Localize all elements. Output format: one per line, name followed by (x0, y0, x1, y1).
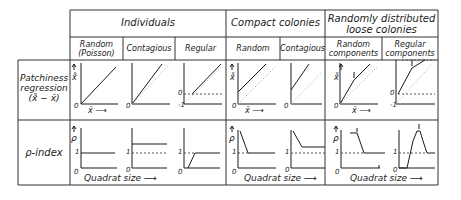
zero-label: 0 (178, 89, 182, 97)
plot-rho-random (81, 128, 117, 168)
one-label: 1 (393, 148, 397, 156)
plot-rho-regular-components (399, 124, 435, 168)
zero-label: 0 (178, 168, 182, 176)
zero-label: 0 (74, 168, 78, 176)
plot-rho-regular (184, 128, 220, 168)
one-label: 1 (126, 148, 130, 156)
x-axis-label: x̄ ⟶ (245, 106, 264, 115)
quadrat-size-label: Quadrat size ⟶ (350, 173, 423, 183)
zero-label: 0 (74, 102, 78, 110)
quadrat-size-label: Quadrat size ⟶ (84, 173, 157, 183)
zero-label: 0 (126, 102, 130, 110)
plot-patchiness-random (81, 63, 118, 104)
one-label: 1 (285, 148, 289, 156)
x-axis-label: x̄ ⟶ (88, 106, 107, 115)
plot-patchiness-compact-random (238, 63, 276, 104)
plot-patchiness-regular (184, 63, 222, 104)
plot-rho-contagious (132, 128, 167, 168)
plot-rho-random-components (341, 128, 385, 168)
minus-one-label: -1 (178, 101, 185, 109)
plot-patchiness-compact-contagious (291, 63, 322, 104)
y-label-rho: ρ (333, 133, 339, 143)
plot-patchiness-regular-components (396, 60, 435, 104)
minus-one-label: -1 (390, 101, 397, 109)
mini-plots (0, 0, 461, 200)
quadrat-size-label: Quadrat size ⟶ (244, 173, 317, 183)
y-label-rho: ρ (229, 133, 235, 143)
zero-label: 0 (334, 102, 338, 110)
one-label: 1 (335, 148, 339, 156)
plot-rho-compact-contagious (291, 130, 325, 168)
zero-label: 0 (232, 102, 236, 110)
one-label: 1 (75, 148, 79, 156)
zero-label: 0 (232, 168, 236, 176)
one-label: 1 (232, 148, 236, 156)
zero-label: 0 (335, 168, 339, 176)
y-label-x-star: x̊ (230, 73, 235, 82)
y-label-rho: ρ (71, 133, 77, 143)
y-label-x-star: x̊ (72, 73, 77, 82)
plot-patchiness-random-components (340, 63, 378, 104)
zero-label: 0 (390, 89, 394, 97)
plot-patchiness-contagious (132, 63, 170, 104)
plot-rho-compact-random (238, 130, 276, 168)
zero-label: 0 (284, 102, 288, 110)
x-axis-label: x̄ ⟶ (352, 106, 371, 115)
one-label: 1 (178, 148, 182, 156)
y-label-x-star: x̊ (334, 73, 339, 82)
